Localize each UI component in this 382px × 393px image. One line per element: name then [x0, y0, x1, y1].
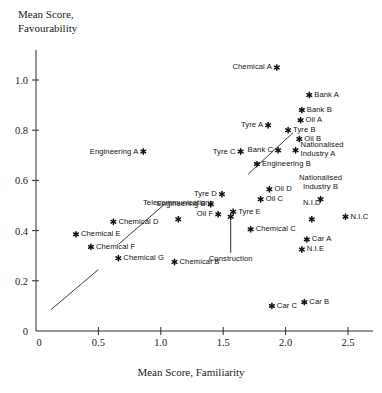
data-point-label-line: Oil C	[266, 195, 283, 204]
data-point-label: Chemical G	[123, 254, 164, 263]
y-tick-label: 0.2	[0, 275, 28, 286]
data-point-label-line: N.I.C	[351, 212, 369, 221]
data-point-label-line: Car C	[277, 302, 297, 311]
data-point-marker	[267, 186, 272, 191]
x-tick-label: 2.5	[341, 337, 354, 348]
data-point-label: Oil C	[266, 195, 283, 204]
data-point-marker	[307, 92, 312, 97]
data-point-marker	[111, 219, 116, 224]
data-point-label: Bank C	[248, 146, 274, 155]
y-axis-title-line1: Mean Score,	[18, 8, 77, 22]
data-point-marker	[270, 303, 275, 308]
data-point-label: Chemical C	[256, 225, 296, 234]
data-point-label-line: Car A	[312, 235, 332, 244]
data-point-marker	[286, 128, 291, 133]
data-point-label: Engineering B	[262, 160, 311, 169]
data-point-label-line: Tyre E	[238, 207, 261, 216]
data-point-marker	[258, 197, 263, 202]
data-point-label-line: Engineering B	[262, 160, 311, 169]
data-point-marker	[216, 212, 221, 217]
data-point-label: Chemical F	[96, 243, 135, 252]
y-axis-title: Mean Score, Favourability	[18, 8, 77, 36]
data-point-label: Engineering A	[90, 147, 139, 156]
data-point-label-line: Bank B	[307, 106, 332, 115]
data-point-label-line: Oil D	[274, 185, 291, 194]
data-point-label: NationalisedIndustry A	[301, 142, 344, 159]
data-point-label-line: N.I.E	[307, 245, 324, 254]
data-point-label: N.I.E	[307, 245, 324, 254]
data-point-marker	[309, 217, 314, 222]
trend-line	[51, 133, 293, 310]
data-point-label-line: Bank A	[314, 91, 339, 100]
data-point-label: Car A	[312, 235, 332, 244]
data-point-label-line: Chemical D	[118, 217, 158, 226]
data-point-label-line: Chemical A	[232, 63, 271, 72]
data-point-marker	[298, 117, 303, 122]
data-point-marker	[343, 214, 348, 219]
data-point-label-line: Construction	[209, 254, 253, 263]
y-axis-title-line2: Favourability	[18, 22, 77, 36]
data-point-label: Chemical E	[81, 230, 121, 239]
data-point-marker	[266, 122, 271, 127]
data-point-marker	[172, 259, 177, 264]
data-point-marker	[74, 232, 79, 237]
x-tick-label: 1.5	[217, 337, 230, 348]
x-axis-title: Mean Score, Familiarity	[0, 366, 382, 380]
x-tick-label: 1.0	[154, 337, 167, 348]
data-point-label-line: Engineering A	[90, 147, 139, 156]
data-point-label: N.I.C	[351, 212, 369, 221]
data-point-label-line: Car B	[309, 298, 329, 307]
data-point-label: NationalisedIndustry B	[299, 175, 342, 192]
data-point-label-line: Chemical E	[81, 230, 121, 239]
data-point-label: Car C	[277, 302, 297, 311]
data-point-marker	[302, 299, 307, 304]
y-tick-label: 0.4	[0, 225, 28, 236]
data-point-marker	[238, 149, 243, 154]
data-point-marker	[275, 65, 280, 70]
data-point-label-line: Industry A	[301, 150, 344, 159]
data-point-marker	[293, 148, 298, 153]
data-point-label: Oil F	[197, 210, 214, 219]
scatter-plot-figure: Mean Score, Favourability Mean Score, Fa…	[0, 0, 382, 393]
data-point-label-line: N.I.D	[303, 199, 321, 208]
data-point-marker	[299, 107, 304, 112]
data-point-marker	[116, 256, 121, 261]
x-tick-label: 0.5	[92, 337, 105, 348]
data-point-label-line: Oil F	[197, 210, 214, 219]
trend-line-segment	[51, 270, 98, 310]
data-point-marker	[176, 217, 181, 222]
plot-canvas	[0, 0, 382, 393]
data-point-label-line: Chemical G	[123, 254, 164, 263]
data-point-label: Tyre A	[241, 121, 263, 130]
data-point-label: Oil D	[274, 185, 291, 194]
data-point-marker	[228, 214, 233, 219]
data-point-label-line: Tyre C	[213, 147, 236, 156]
data-point-label-line: Chemical C	[256, 225, 296, 234]
y-tick-label: 0.6	[0, 175, 28, 186]
x-tick-label: 2.0	[279, 337, 292, 348]
data-point-label: Chemical D	[118, 217, 158, 226]
data-point-label-line: Telecommunications	[143, 199, 214, 208]
y-tick-label: 0.8	[0, 125, 28, 136]
data-point-label-line: Industry B	[299, 183, 342, 192]
data-point-label-line: Tyre A	[241, 121, 263, 130]
data-point-label: Tyre E	[238, 207, 261, 216]
data-point-label: Bank A	[314, 91, 339, 100]
data-point-label-line: Oil A	[306, 116, 323, 125]
data-point-marker	[89, 244, 94, 249]
x-tick-label: 0	[36, 337, 41, 348]
data-point-label: Oil A	[306, 116, 323, 125]
data-point-label: Chemical A	[232, 63, 271, 72]
data-point-label-line: Bank C	[248, 146, 274, 155]
data-point-marker	[220, 192, 225, 197]
data-point-label: Car B	[309, 298, 329, 307]
data-point-label: Telecommunications	[143, 199, 214, 208]
data-point-label: Tyre C	[213, 147, 236, 156]
data-point-label: Bank B	[307, 106, 332, 115]
data-point-label: Construction	[209, 254, 253, 263]
data-point-label-line: Chemical F	[96, 243, 135, 252]
data-point-label: N.I.D	[303, 199, 321, 208]
data-point-marker	[299, 247, 304, 252]
data-point-marker	[141, 149, 146, 154]
y-tick-label: 0	[0, 326, 28, 337]
